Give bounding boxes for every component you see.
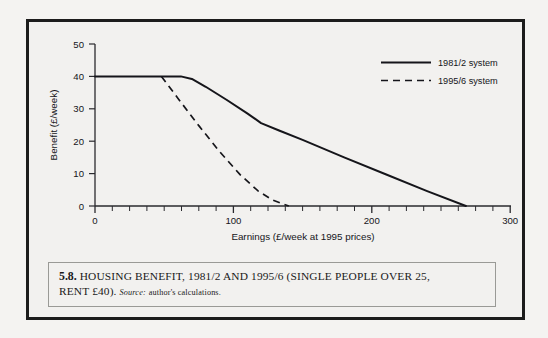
x-tick-label: 300 [502,215,518,226]
caption-title-line2: RENT £40). [59,285,117,297]
x-axis-minor-ticks [112,206,493,211]
x-axis-title: Earnings (£/week at 1995 prices) [231,231,374,242]
figure-caption-box: 5.8. HOUSING BENEFIT, 1981/2 AND 1995/6 … [48,262,496,307]
y-tick-label: 0 [79,201,84,212]
legend-label-1981-2: 1981/2 system [438,58,498,68]
y-axis-ticks [89,44,95,206]
caption-line-2: RENT £40). Source: author's calculations… [59,284,486,300]
caption-number: 5.8. [59,269,77,283]
chart-figure: 0 10 20 30 40 50 [29,22,522,254]
legend-label-1995-6: 1995/6 system [438,76,498,86]
caption-source-label: Source: [120,288,146,297]
x-tick-label: 200 [364,215,380,226]
caption-source-text: author's calculations. [149,288,221,297]
x-axis-tick-labels: 0 100 200 300 [92,215,518,226]
chart-legend: 1981/2 system 1995/6 system [381,58,498,86]
caption-line-1: 5.8. HOUSING BENEFIT, 1981/2 AND 1995/6 … [59,269,486,284]
x-tick-label: 100 [225,215,241,226]
series-line-1981-2 [95,76,466,206]
y-axis-tick-labels: 0 10 20 30 40 50 [73,39,84,212]
chart-plot-svg: 0 10 20 30 40 50 [29,22,522,254]
caption-title: HOUSING BENEFIT, 1981/2 AND 1995/6 (SING… [80,270,430,282]
x-tick-label: 0 [92,215,97,226]
series-line-1995-6 [161,76,288,206]
y-tick-label: 10 [73,168,84,179]
y-tick-label: 40 [73,71,84,82]
y-tick-label: 20 [73,136,84,147]
y-tick-label: 30 [73,103,84,114]
y-tick-label: 50 [73,39,84,50]
figure-outer-frame: 0 10 20 30 40 50 [26,19,525,320]
y-axis-title: Benefit (£/week) [48,90,59,161]
